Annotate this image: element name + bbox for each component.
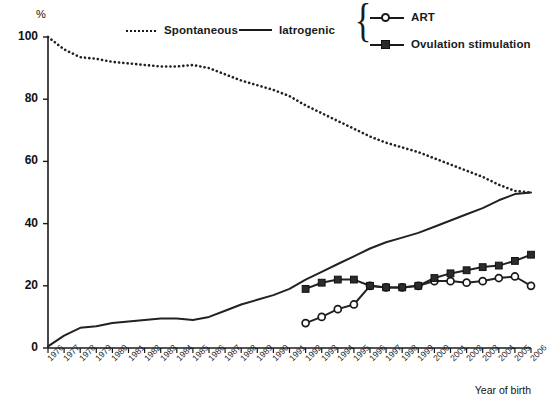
data-point-ovulation-stimulation [383, 284, 390, 291]
data-point-art [528, 282, 535, 289]
data-point-ovulation-stimulation [512, 258, 519, 265]
data-point-art [495, 275, 502, 282]
data-point-art [447, 278, 454, 285]
data-point-ovulation-stimulation [447, 270, 454, 277]
data-point-art [463, 279, 470, 286]
series-line-spontaneous [48, 37, 531, 193]
data-point-art [479, 278, 486, 285]
data-point-art [350, 301, 357, 308]
data-point-ovulation-stimulation [528, 251, 535, 258]
data-point-ovulation-stimulation [415, 282, 422, 289]
data-point-ovulation-stimulation [399, 284, 406, 291]
series-line-iatrogenic [48, 193, 531, 347]
data-point-ovulation-stimulation [302, 286, 309, 293]
data-point-art [318, 313, 325, 320]
data-point-art [334, 306, 341, 313]
data-point-art [302, 320, 309, 327]
figure-caption-cropped [14, 399, 16, 408]
data-point-ovulation-stimulation [431, 275, 438, 282]
data-point-ovulation-stimulation [495, 262, 502, 269]
data-point-ovulation-stimulation [367, 282, 374, 289]
data-point-ovulation-stimulation [318, 279, 325, 286]
data-point-ovulation-stimulation [479, 264, 486, 271]
data-point-ovulation-stimulation [463, 267, 470, 274]
data-point-ovulation-stimulation [334, 276, 341, 283]
data-point-ovulation-stimulation [351, 276, 358, 283]
axis-lines [48, 37, 531, 348]
data-point-art [511, 273, 518, 280]
data-series-layer [48, 37, 535, 346]
